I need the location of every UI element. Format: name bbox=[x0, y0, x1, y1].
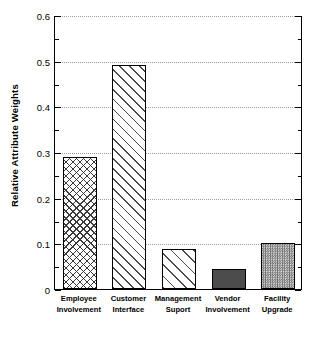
y-axis-tick-minor bbox=[55, 222, 59, 223]
y-axis-tick-major-right bbox=[295, 107, 301, 108]
y-axis-tick-major bbox=[55, 244, 61, 245]
y-axis-tick-minor-right bbox=[298, 222, 302, 223]
y-axis-tick-labels: 00.10.20.30.40.50.6 bbox=[24, 16, 50, 290]
bar-chart-figure: Relative Attribute Weights 00.10.20.30.4… bbox=[0, 0, 319, 338]
y-axis-tick-major-right bbox=[295, 199, 301, 200]
gridline bbox=[55, 107, 301, 108]
bar bbox=[112, 65, 146, 289]
bar bbox=[162, 249, 196, 289]
y-axis-tick-major bbox=[55, 199, 61, 200]
y-axis-tick-label: 0.5 bbox=[37, 56, 50, 67]
y-axis-tick-minor-right bbox=[298, 39, 302, 40]
y-axis-tick-minor-right bbox=[298, 176, 302, 177]
x-axis-category-labels: EmployeeInvolvementCustomerInterfaceMana… bbox=[54, 294, 302, 334]
y-axis-tick-major-right bbox=[295, 62, 301, 63]
y-axis-tick-minor bbox=[55, 176, 59, 177]
y-axis-tick-major-right bbox=[295, 16, 301, 17]
y-axis-tick-minor-right bbox=[298, 267, 302, 268]
y-axis-tick-minor bbox=[55, 267, 59, 268]
y-axis-tick-major bbox=[55, 62, 61, 63]
y-axis-tick-label: 0.2 bbox=[37, 193, 50, 204]
y-axis-tick-minor-right bbox=[298, 130, 302, 131]
y-axis-tick-major-right bbox=[295, 153, 301, 154]
y-axis-tick-minor bbox=[55, 130, 59, 131]
x-axis-label-line1: Facility bbox=[248, 294, 306, 305]
x-axis-label-line2: Upgrade bbox=[248, 305, 306, 316]
y-axis-tick-major bbox=[55, 290, 61, 291]
y-axis-tick-label: 0.6 bbox=[37, 11, 50, 22]
y-axis-tick-major bbox=[55, 153, 61, 154]
gridline bbox=[55, 62, 301, 63]
plot-area bbox=[54, 16, 302, 290]
y-axis-tick-minor bbox=[55, 85, 59, 86]
y-axis-tick-label: 0.4 bbox=[37, 102, 50, 113]
gridline bbox=[55, 153, 301, 154]
y-axis-title-text: Relative Attribute Weights bbox=[9, 84, 20, 207]
y-axis-tick-major-right bbox=[295, 244, 301, 245]
gridline bbox=[55, 16, 301, 17]
y-axis-tick-major bbox=[55, 107, 61, 108]
bar bbox=[63, 157, 97, 289]
y-axis-tick-major-right bbox=[295, 290, 301, 291]
bar bbox=[212, 269, 246, 289]
y-axis-tick-label: 0.3 bbox=[37, 148, 50, 159]
y-axis-title: Relative Attribute Weights bbox=[4, 0, 24, 290]
y-axis-tick-major bbox=[55, 16, 61, 17]
y-axis-tick-minor-right bbox=[298, 85, 302, 86]
x-axis-category-label: FacilityUpgrade bbox=[248, 294, 306, 315]
bar bbox=[261, 243, 295, 289]
y-axis-tick-minor bbox=[55, 39, 59, 40]
y-axis-tick-label: 0.1 bbox=[37, 239, 50, 250]
